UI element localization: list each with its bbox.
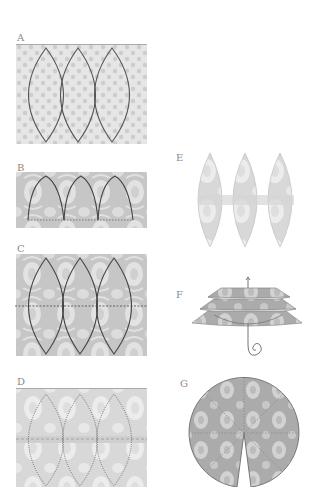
step-b-panel bbox=[16, 172, 147, 228]
step-d-label: D bbox=[17, 377, 25, 387]
step-e-panel bbox=[190, 151, 302, 249]
step-b-illustration bbox=[16, 172, 147, 228]
step-g-illustration bbox=[188, 375, 300, 487]
step-f-label: F bbox=[176, 290, 183, 300]
step-d-panel bbox=[16, 388, 147, 487]
step-a-label: A bbox=[17, 33, 24, 43]
step-g-label: G bbox=[180, 379, 188, 389]
step-a-illustration bbox=[16, 44, 147, 144]
step-g-panel bbox=[188, 375, 300, 487]
step-c-illustration bbox=[15, 254, 148, 356]
step-e-label: E bbox=[176, 153, 183, 163]
step-f-panel bbox=[186, 277, 306, 359]
step-a-panel bbox=[16, 44, 147, 144]
step-e-illustration bbox=[190, 151, 302, 249]
step-c-label: C bbox=[17, 244, 25, 254]
step-f-illustration bbox=[186, 277, 306, 359]
step-d-illustration bbox=[16, 388, 147, 487]
step-c-panel bbox=[15, 254, 148, 356]
